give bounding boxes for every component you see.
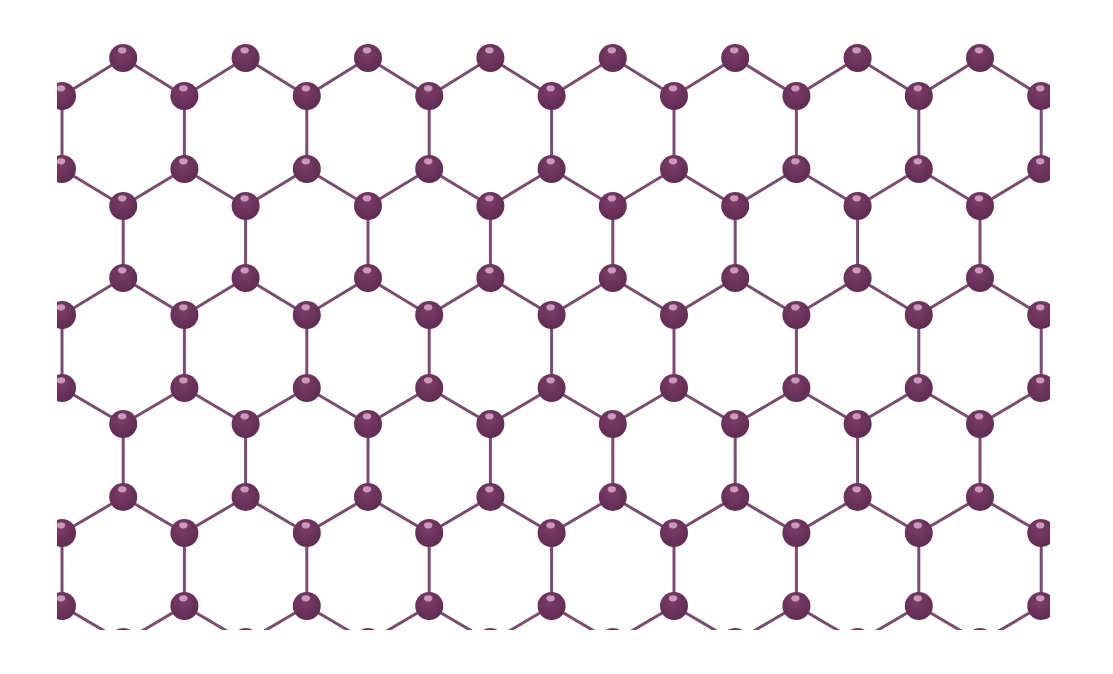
carbon-atom	[48, 301, 76, 329]
carbon-atom	[599, 264, 627, 292]
carbon-atom	[354, 44, 382, 72]
atom-highlight	[363, 195, 371, 201]
atom-highlight	[791, 522, 799, 528]
carbon-atom	[109, 410, 137, 438]
atom-highlight	[669, 85, 677, 91]
atom-highlight	[118, 267, 126, 273]
atom-highlight	[730, 486, 738, 492]
carbon-atom	[354, 192, 382, 220]
atom-highlight	[730, 267, 738, 273]
atom-sphere-icon	[109, 628, 137, 656]
carbon-atom	[721, 410, 749, 438]
carbon-atom	[721, 483, 749, 511]
carbon-atom	[538, 374, 566, 402]
carbon-atom	[293, 82, 321, 110]
atom-highlight	[1036, 85, 1044, 91]
carbon-atom	[905, 519, 933, 547]
carbon-atom	[782, 155, 810, 183]
atom-highlight	[179, 595, 187, 601]
carbon-atom	[538, 519, 566, 547]
atom-highlight	[485, 195, 493, 201]
atom-highlight	[179, 522, 187, 528]
atom-highlight	[118, 413, 126, 419]
atom-highlight	[975, 486, 983, 492]
carbon-atom	[844, 192, 872, 220]
atom-highlight	[852, 631, 860, 637]
atom-highlight	[485, 631, 493, 637]
carbon-atom	[293, 519, 321, 547]
atom-sphere-icon	[966, 628, 994, 656]
carbon-atom	[415, 592, 443, 620]
carbon-atom	[782, 301, 810, 329]
atom-highlight	[302, 522, 310, 528]
carbon-atom	[293, 592, 321, 620]
atom-highlight	[791, 595, 799, 601]
carbon-atom	[1027, 155, 1055, 183]
carbon-atom	[660, 301, 688, 329]
atom-highlight	[975, 267, 983, 273]
carbon-atom	[538, 82, 566, 110]
atom-highlight	[975, 195, 983, 201]
atom-highlight	[791, 377, 799, 383]
carbon-atom	[415, 155, 443, 183]
atom-highlight	[363, 413, 371, 419]
atom-highlight	[1036, 158, 1044, 164]
bond	[1041, 606, 1102, 642]
carbon-atom	[109, 264, 137, 292]
atom-highlight	[730, 47, 738, 53]
atom-highlight	[57, 595, 65, 601]
carbon-atom	[660, 82, 688, 110]
carbon-atom	[170, 592, 198, 620]
carbon-atom	[660, 519, 688, 547]
atom-highlight	[179, 304, 187, 310]
atom-highlight	[1036, 595, 1044, 601]
atom-highlight	[363, 486, 371, 492]
atom-highlight	[791, 304, 799, 310]
atom-highlight	[57, 522, 65, 528]
carbon-atom	[476, 483, 504, 511]
carbon-atom	[48, 155, 76, 183]
atom-highlight	[852, 195, 860, 201]
carbon-atom	[966, 192, 994, 220]
atom-highlight	[424, 522, 432, 528]
atom-highlight	[363, 631, 371, 637]
carbon-atom	[782, 82, 810, 110]
carbon-atom	[415, 82, 443, 110]
carbon-atom	[966, 264, 994, 292]
carbon-atom	[170, 155, 198, 183]
atom-highlight	[546, 522, 554, 528]
atom-highlight	[302, 304, 310, 310]
atom-highlight	[302, 377, 310, 383]
carbon-atom	[415, 374, 443, 402]
atom-highlight	[730, 195, 738, 201]
carbon-atom	[966, 44, 994, 72]
atom-highlight	[118, 486, 126, 492]
carbon-atom	[905, 82, 933, 110]
bond	[1, 169, 62, 206]
carbon-atom	[660, 374, 688, 402]
atom-highlight	[669, 304, 677, 310]
atom-highlight	[1036, 522, 1044, 528]
carbon-atom	[966, 628, 994, 656]
atom-sphere-icon	[844, 628, 872, 656]
carbon-atom	[660, 155, 688, 183]
atom-highlight	[914, 377, 922, 383]
carbon-atom	[844, 410, 872, 438]
atom-highlight	[485, 413, 493, 419]
atom-highlight	[914, 304, 922, 310]
carbon-atom	[538, 592, 566, 620]
carbon-atom	[48, 592, 76, 620]
carbon-atom	[966, 410, 994, 438]
carbon-atom	[109, 192, 137, 220]
atom-highlight	[669, 522, 677, 528]
carbon-atom	[721, 192, 749, 220]
atom-highlight	[608, 47, 616, 53]
carbon-atom	[782, 374, 810, 402]
atom-highlight	[179, 158, 187, 164]
atom-highlight	[914, 522, 922, 528]
carbon-atom	[476, 192, 504, 220]
lattice-group	[1, 44, 1103, 656]
carbon-atom	[415, 301, 443, 329]
carbon-atom	[48, 519, 76, 547]
atom-highlight	[546, 377, 554, 383]
